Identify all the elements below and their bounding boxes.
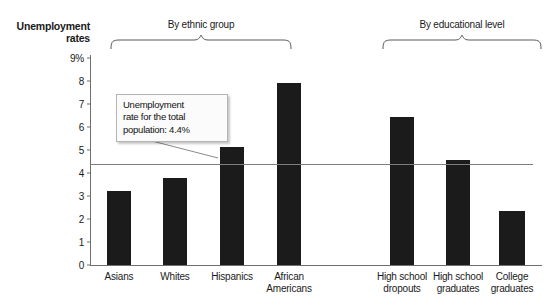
group-label-education: By educational level <box>382 19 542 30</box>
unemployment-rates-bar-chart: Unemployment rates 9%876543210 AsiansWhi… <box>0 0 556 306</box>
callout-line-2: rate for the total <box>123 111 185 122</box>
brace-ethnic-group <box>110 34 292 50</box>
group-label-ethnic: By ethnic group <box>110 19 292 30</box>
brace-educational-level <box>382 34 542 50</box>
callout-line-1: Unemployment <box>123 99 184 110</box>
callout-line-3: population: 4.4% <box>123 124 190 135</box>
group-label-ethnic-text: By ethnic group <box>168 19 235 30</box>
group-label-education-text: By educational level <box>420 19 505 30</box>
reference-line-callout: Unemployment rate for the total populati… <box>116 94 228 142</box>
